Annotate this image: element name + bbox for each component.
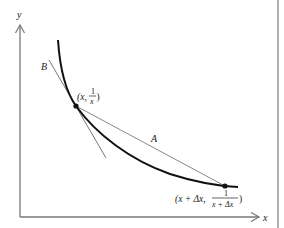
axes: y x: [16, 9, 269, 223]
svg-text:x: x: [89, 97, 94, 106]
svg-text:(x + Δx,: (x + Δx,: [175, 194, 206, 205]
reciprocal-curve: [58, 40, 238, 187]
secant-label-a: A: [150, 133, 158, 144]
secant-line-a: [76, 106, 225, 186]
svg-text:): ): [97, 92, 100, 103]
point-x-dot: [73, 103, 78, 108]
svg-text:1: 1: [224, 189, 228, 198]
svg-text:): ): [239, 194, 242, 205]
svg-text:1: 1: [91, 87, 95, 96]
point-x-label: (x, 1 x ): [77, 87, 100, 106]
point-x-plus-dx-label: (x + Δx, 1 x + Δx ): [175, 189, 242, 209]
reciprocal-curve-diagram: y x B A (x, 1 x ) (x + Δx, 1 x + Δx ): [0, 0, 284, 228]
tangent-label-b: B: [41, 61, 47, 72]
svg-text:(x,: (x,: [77, 92, 87, 103]
y-axis-label: y: [16, 9, 22, 20]
svg-text:x + Δx: x + Δx: [211, 200, 234, 209]
x-axis-label: x: [262, 212, 268, 223]
point-x-plus-dx-dot: [222, 183, 227, 188]
